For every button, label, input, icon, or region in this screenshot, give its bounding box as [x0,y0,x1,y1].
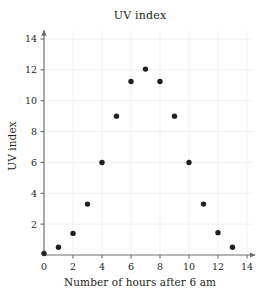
data-point [215,230,220,235]
uv-index-scatter-figure: UV index UV index Number of hours after … [0,0,280,298]
x-axis-tick-label: 12 [212,261,224,272]
gridlines-group [44,31,253,255]
y-axis-tick-label: 6 [31,157,37,168]
axis-ticks-group [41,39,248,259]
data-point [114,113,119,118]
data-point [186,160,191,165]
data-point [201,201,206,206]
x-axis-tick-label: 10 [183,261,195,272]
x-axis-tick-label: 8 [157,261,163,272]
data-point [41,251,46,256]
data-point [85,201,90,206]
data-points-group [41,66,235,256]
y-axis-tick-label: 12 [25,64,37,75]
tick-labels-group: 024681012142468101214 [25,33,253,272]
y-axis-tick-label: 14 [25,33,37,44]
plot-area: 024681012142468101214 [0,0,280,298]
y-axis-tick-label: 4 [31,188,37,199]
data-point [157,79,162,84]
y-axis-tick-label: 8 [31,126,37,137]
y-axis-tick-label: 2 [31,219,37,230]
data-point [230,245,235,250]
data-point [143,66,148,71]
x-axis-tick-label: 2 [70,261,76,272]
axes-group [44,31,255,255]
data-point [128,79,133,84]
data-point [172,113,177,118]
x-axis-tick-label: 6 [128,261,134,272]
data-point [70,231,75,236]
y-axis-tick-label: 10 [25,95,37,106]
x-axis-tick-label: 0 [41,261,47,272]
data-point [56,245,61,250]
data-point [99,160,104,165]
x-axis-tick-label: 4 [99,261,105,272]
x-axis-tick-label: 14 [241,261,253,272]
